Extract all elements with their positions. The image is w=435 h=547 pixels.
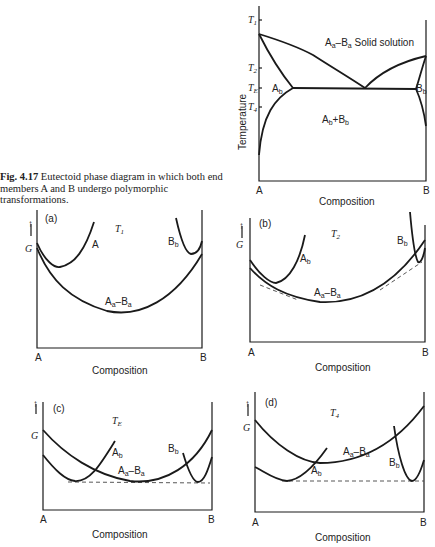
temp-label-T1: T1 — [115, 223, 124, 236]
figure-canvas: T1 T2 TE T4 Temperature Aa–Ba Solid solu… — [0, 0, 435, 547]
label-Bb-b: Bb — [397, 235, 408, 247]
svg-text:↑: ↑ — [239, 220, 244, 231]
tick-T2: T2 — [248, 62, 258, 75]
xlabel-c: Composition — [92, 529, 148, 540]
Ab-upper-boundary — [259, 34, 293, 88]
xlabel-b: Composition — [315, 362, 371, 373]
Ab-lower-boundary — [259, 88, 293, 155]
xtick-A-c: A — [40, 514, 47, 525]
xlabel-composition: Composition — [319, 196, 375, 207]
xtick-B-c: B — [208, 514, 215, 525]
label-Ab-b: Ab — [300, 253, 311, 265]
xtick-B-d: B — [420, 517, 427, 528]
ylabel-G-b: G — [236, 239, 243, 250]
panel-c-axes — [43, 402, 212, 510]
region-Ab: Ab — [272, 83, 283, 95]
temp-label-T4: T4 — [330, 407, 340, 420]
label-Ab-d: Ab — [311, 465, 322, 477]
label-Bb-d: Bb — [389, 457, 400, 469]
panel-b: ↑ G (b) T2 Ab Bb Aa–Ba A B Composition — [236, 212, 429, 373]
xtick-B: B — [423, 185, 430, 196]
tick-T4: T4 — [248, 101, 258, 114]
xlabel-d: Composition — [315, 532, 371, 543]
xtick-B-b: B — [422, 347, 429, 358]
curve-Bb-b — [410, 212, 425, 262]
phase-diagram: T1 T2 TE T4 Temperature Aa–Ba Solid solu… — [237, 6, 430, 207]
xtick-A-a: A — [35, 352, 42, 363]
ylabel-G-d: G — [243, 422, 250, 433]
label-AaBa-d: Aa–Ba — [343, 446, 370, 458]
region-solid-solution: Aa–Ba Solid solution — [325, 37, 414, 49]
label-Ab-c: Ab — [112, 447, 123, 459]
label-AaBa-a: Aa–Ba — [105, 296, 132, 308]
region-Ab-plus-Bb: Ab+Bb — [322, 114, 349, 126]
ylabel-G-a: G — [25, 243, 32, 254]
ylabel-temperature: Temperature — [237, 93, 248, 150]
xtick-A-d: A — [252, 517, 259, 528]
panel-c: ↑ G (c) TE Ab Bb Aa–Ba A B Composition — [31, 398, 215, 540]
label-AaBa-c: Aa–Ba — [118, 465, 145, 477]
temp-label-TE: TE — [112, 415, 123, 428]
label-Bb-c: Bb — [168, 443, 179, 455]
eutectoid-line — [293, 88, 416, 89]
label-AaBa-b: Aa–Ba — [314, 287, 341, 299]
panel-a: ↑ G (a) T1 A Bb Aa–Ba A B Composition — [25, 210, 207, 376]
xtick-A-b: A — [248, 347, 255, 358]
svg-text:↑: ↑ — [28, 218, 33, 229]
svg-text:↑: ↑ — [245, 398, 250, 409]
panel-d: ↑ G (d) T4 Aa–Ba Ab Bb A B Composition — [243, 392, 427, 543]
tick-TE: TE — [248, 82, 259, 95]
xtick-A: A — [256, 185, 263, 196]
svg-text:↑: ↑ — [33, 398, 38, 409]
curve-A-a — [37, 222, 94, 267]
common-tangent-b — [260, 262, 422, 300]
label-A-a: A — [92, 239, 99, 250]
ylabel-G-c: G — [31, 430, 38, 441]
tick-T1: T1 — [248, 14, 257, 27]
region-Bb: Bb — [416, 83, 427, 95]
xlabel-a: Composition — [92, 365, 148, 376]
panel-label-d: (d) — [265, 397, 277, 408]
panel-label-b: (b) — [259, 218, 271, 229]
label-Bb-a: Bb — [168, 236, 179, 248]
curve-Bb-c — [183, 453, 212, 482]
panel-label-c: (c) — [53, 403, 65, 414]
curve-Bb-a — [176, 218, 202, 254]
xtick-B-a: B — [200, 352, 207, 363]
temp-label-T2: T2 — [331, 228, 341, 241]
panel-label-a: (a) — [45, 213, 57, 224]
